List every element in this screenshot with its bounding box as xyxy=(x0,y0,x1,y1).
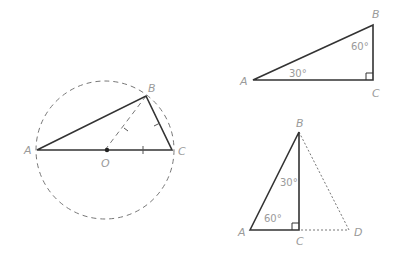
triangle-abc xyxy=(37,96,172,150)
label-d: D xyxy=(354,226,362,239)
triangle-abc xyxy=(253,25,373,80)
right-angle-marker xyxy=(366,73,373,80)
label-o: O xyxy=(101,157,110,170)
angle-b: 30° xyxy=(280,177,298,188)
angle-a: 30° xyxy=(289,68,307,79)
geometry-diagram: A B C O A B C 30° 60° A B C D 60° 30° xyxy=(0,0,393,256)
tick-mark xyxy=(124,128,128,131)
label-b: B xyxy=(296,117,304,130)
label-c: C xyxy=(372,87,380,100)
triangle-30-60-90: A B C 30° 60° xyxy=(239,8,380,100)
radius-ob xyxy=(105,96,146,150)
label-c: C xyxy=(296,235,304,248)
center-point-o xyxy=(105,148,109,152)
label-b: B xyxy=(372,8,380,21)
right-angle-marker xyxy=(292,223,299,230)
circle-figure: A B C O xyxy=(23,81,186,219)
label-b: B xyxy=(148,82,156,95)
label-c: C xyxy=(178,145,186,158)
label-a: A xyxy=(239,75,248,88)
reflected-triangle xyxy=(299,132,349,230)
angle-a: 60° xyxy=(264,213,282,224)
label-a: A xyxy=(237,226,246,239)
equilateral-split-figure: A B C D 60° 30° xyxy=(237,117,362,248)
label-a: A xyxy=(23,144,32,157)
angle-b: 60° xyxy=(351,41,369,52)
